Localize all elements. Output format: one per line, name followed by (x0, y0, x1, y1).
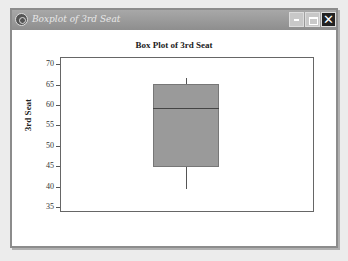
y-tick (56, 207, 60, 208)
maximize-button[interactable] (305, 12, 320, 27)
minimize-button[interactable] (289, 12, 304, 27)
y-tick-label: 50 (39, 142, 54, 150)
y-tick-label: 65 (39, 81, 54, 89)
y-tick-label: 45 (39, 162, 54, 170)
y-tick (56, 64, 60, 65)
y-tick (56, 166, 60, 167)
y-tick-label: 55 (39, 121, 54, 129)
y-tick (56, 105, 60, 106)
iqr-box (153, 84, 219, 167)
y-axis-label: 3rd Seat (23, 95, 33, 135)
y-tick-label: 60 (39, 101, 54, 109)
y-tick-label: 70 (39, 60, 54, 68)
chart-area: Box Plot of 3rd Seat 3rd Seat 3540455055… (12, 30, 336, 246)
y-tick-label: 40 (39, 183, 54, 191)
chart-title: Box Plot of 3rd Seat (12, 40, 336, 50)
title-bar[interactable]: Boxplot of 3rd Seat ✕ (12, 10, 336, 30)
y-tick (56, 125, 60, 126)
y-tick-label: 35 (39, 203, 54, 211)
app-icon[interactable] (15, 13, 28, 26)
boxplot-window: Boxplot of 3rd Seat ✕ Box Plot of 3rd Se… (10, 8, 338, 248)
y-tick (56, 187, 60, 188)
plot-frame: 3540455055606570 (60, 57, 314, 212)
close-button[interactable]: ✕ (321, 12, 336, 27)
y-tick (56, 146, 60, 147)
median-line (153, 108, 219, 109)
window-title: Boxplot of 3rd Seat (32, 14, 120, 24)
y-tick (56, 85, 60, 86)
